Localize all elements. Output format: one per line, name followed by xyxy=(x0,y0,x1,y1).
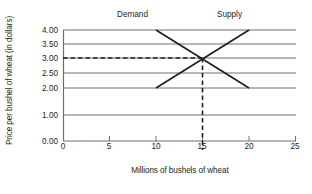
x-axis-title: Millions of bushels of wheat xyxy=(63,166,297,175)
x-axis-ticks xyxy=(64,136,296,141)
plot-area xyxy=(0,0,312,194)
gridlines xyxy=(63,30,296,141)
supply-demand-chart: Price per bushel of wheat (in dollars) 4… xyxy=(0,0,312,194)
